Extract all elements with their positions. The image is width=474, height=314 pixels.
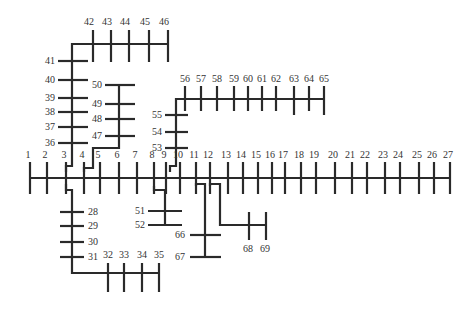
bus-label-45: 45 <box>140 16 150 27</box>
bus-label-12: 12 <box>203 149 213 160</box>
bus-label-33: 33 <box>119 249 129 260</box>
bus-label-6: 6 <box>115 149 120 160</box>
bus-label-3: 3 <box>62 149 67 160</box>
bus-label-44: 44 <box>120 16 130 27</box>
bus-label-26: 26 <box>427 149 437 160</box>
bus-label-63: 63 <box>289 73 299 84</box>
bus-label-50: 50 <box>92 79 102 90</box>
bus-label-40: 40 <box>45 74 55 85</box>
bus-label-48: 48 <box>92 113 102 124</box>
bus-label-14: 14 <box>236 149 246 160</box>
single-line-diagram: 1234567891011121314151617181920212223242… <box>0 0 474 314</box>
bus-label-47: 47 <box>92 130 102 141</box>
bus-label-19: 19 <box>309 149 319 160</box>
bus-label-56: 56 <box>180 73 190 84</box>
bus-label-60: 60 <box>243 73 253 84</box>
bus-label-67: 67 <box>175 251 185 262</box>
bus-label-46: 46 <box>159 16 169 27</box>
bus-label-38: 38 <box>45 106 55 117</box>
bus-label-69: 69 <box>260 243 270 254</box>
bus-label-43: 43 <box>102 16 112 27</box>
bus-label-17: 17 <box>278 149 288 160</box>
bus-label-52: 52 <box>135 219 145 230</box>
bus-label-62: 62 <box>271 73 281 84</box>
bus-label-35: 35 <box>154 249 164 260</box>
bus-label-11: 11 <box>189 149 199 160</box>
bus-label-13: 13 <box>221 149 231 160</box>
bus-label-20: 20 <box>328 149 338 160</box>
branch-66-67-trunk <box>196 184 205 257</box>
bus-label-61: 61 <box>257 73 267 84</box>
bus-label-2: 2 <box>43 149 48 160</box>
bus-label-53: 53 <box>152 142 162 153</box>
bus-label-68: 68 <box>243 243 253 254</box>
bus-label-25: 25 <box>412 149 422 160</box>
bus-label-64: 64 <box>304 73 314 84</box>
bus-label-7: 7 <box>133 149 138 160</box>
bus-label-54: 54 <box>152 126 162 137</box>
bus-label-37: 37 <box>45 121 55 132</box>
bus-label-58: 58 <box>212 73 222 84</box>
bus-label-30: 30 <box>88 236 98 247</box>
distribution-network-diagram: 1234567891011121314151617181920212223242… <box>0 0 474 314</box>
bus-label-4: 4 <box>80 149 85 160</box>
bus-label-16: 16 <box>265 149 275 160</box>
bus-label-31: 31 <box>88 251 98 262</box>
bus-label-51: 51 <box>135 205 145 216</box>
bus-label-49: 49 <box>92 98 102 109</box>
bus-label-32: 32 <box>103 249 113 260</box>
bus-label-21: 21 <box>345 149 355 160</box>
bus-label-42: 42 <box>84 16 94 27</box>
bus-label-1: 1 <box>26 149 31 160</box>
bus-label-66: 66 <box>175 229 185 240</box>
bus-label-36: 36 <box>45 137 55 148</box>
bus-label-41: 41 <box>45 55 55 66</box>
bus-label-23: 23 <box>378 149 388 160</box>
bus-label-10: 10 <box>173 149 183 160</box>
bus-label-9: 9 <box>162 149 167 160</box>
bus-label-39: 39 <box>45 92 55 103</box>
bus-label-28: 28 <box>88 206 98 217</box>
bus-label-59: 59 <box>229 73 239 84</box>
bus-label-65: 65 <box>319 73 329 84</box>
bus-label-15: 15 <box>251 149 261 160</box>
bus-label-57: 57 <box>196 73 206 84</box>
bus-label-24: 24 <box>393 149 403 160</box>
bus-label-34: 34 <box>137 249 147 260</box>
bus-label-55: 55 <box>152 109 162 120</box>
bus-label-22: 22 <box>360 149 370 160</box>
bus-label-29: 29 <box>88 220 98 231</box>
bus-label-5: 5 <box>96 149 101 160</box>
bus-label-27: 27 <box>443 149 453 160</box>
bus-label-18: 18 <box>294 149 304 160</box>
branch-51-52-trunk <box>154 186 165 225</box>
